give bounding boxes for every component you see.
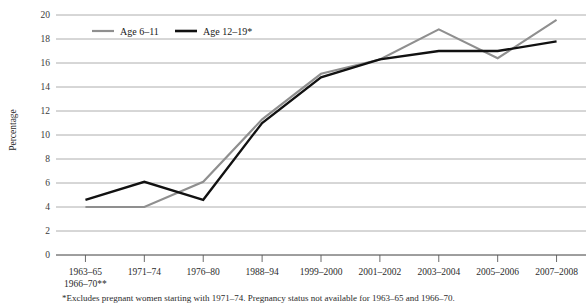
y-axis-tick-label: 0 bbox=[45, 250, 50, 260]
x-axis-tick-label: 1988–94 bbox=[245, 267, 279, 277]
legend-label-age-12-19: Age 12–19* bbox=[203, 26, 252, 37]
x-axis-tick-label: 1963–65 bbox=[69, 267, 103, 277]
x-axis-tick-label: 1999–2000 bbox=[300, 267, 343, 277]
y-axis-tick-label: 20 bbox=[41, 10, 51, 20]
y-axis-tick-label: 2 bbox=[45, 226, 50, 236]
y-axis-tick-label: 10 bbox=[41, 130, 51, 140]
y-axis-tick-label: 6 bbox=[45, 178, 50, 188]
x-axis-tick-label-secondary: 1966–70** bbox=[64, 279, 107, 289]
y-axis-tick-label: 4 bbox=[45, 202, 50, 212]
x-axis-tick-label: 1971–74 bbox=[128, 267, 162, 277]
line-chart: 02468101214161820 1963–651966–70**1971–7… bbox=[0, 0, 588, 305]
legend-label-age-6-11: Age 6–11 bbox=[120, 26, 159, 37]
x-axis-tick-label: 2001–2002 bbox=[359, 267, 402, 277]
footnote-text: *Excludes pregnant women starting with 1… bbox=[62, 293, 455, 303]
x-axis-tick-label: 1976–80 bbox=[187, 267, 221, 277]
x-axis-tick-label: 2005–2006 bbox=[476, 267, 519, 277]
y-axis-tick-label: 12 bbox=[41, 106, 51, 116]
y-axis-tick-label: 16 bbox=[41, 58, 51, 68]
y-axis-title: Percentage bbox=[8, 109, 18, 151]
chart-background bbox=[0, 0, 588, 305]
chart-container: 02468101214161820 1963–651966–70**1971–7… bbox=[0, 0, 588, 305]
x-axis-tick-label: 2007–2008 bbox=[535, 267, 578, 277]
y-axis-tick-label: 8 bbox=[45, 154, 50, 164]
y-axis-tick-label: 18 bbox=[41, 34, 51, 44]
x-axis-tick-label: 2003–2004 bbox=[417, 267, 460, 277]
y-axis-tick-label: 14 bbox=[41, 82, 51, 92]
